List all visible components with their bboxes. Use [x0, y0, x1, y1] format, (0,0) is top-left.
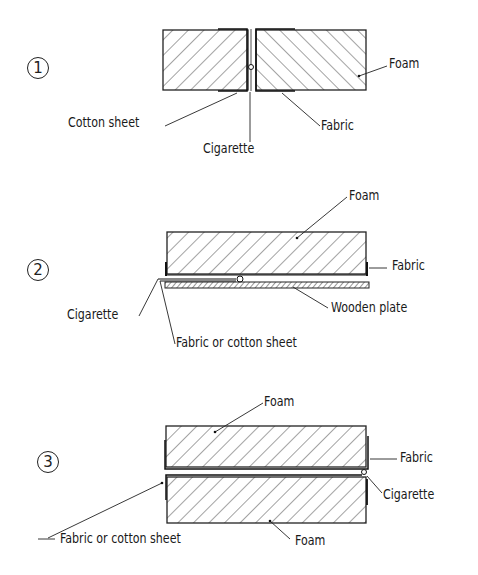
cigarette — [249, 65, 254, 70]
panel-number-1: 1 — [27, 57, 49, 79]
foam-block-right — [256, 30, 366, 90]
label-foam: Foam — [389, 55, 419, 71]
label-cotton-sheet: Cotton sheet — [68, 114, 139, 130]
panel-2 — [139, 197, 387, 344]
label-wooden-plate: Wooden plate — [331, 299, 407, 315]
foam-block-left — [163, 30, 248, 90]
label-fabric: Fabric — [321, 117, 354, 133]
label-foam-top: Foam — [264, 393, 294, 409]
panel-3 — [38, 403, 397, 539]
panel-number-3: 3 — [37, 451, 59, 473]
label-cigarette: Cigarette — [67, 306, 118, 322]
panel-number-2: 2 — [27, 259, 49, 281]
cigarette — [237, 276, 243, 282]
cigarette — [362, 470, 367, 475]
foam-block-top — [166, 426, 366, 467]
label-fabric-or-cotton-sheet: Fabric or cotton sheet — [60, 530, 181, 546]
label-foam: Foam — [349, 187, 379, 203]
foam-block-bottom — [167, 477, 366, 523]
label-fabric-or-cotton-sheet: Fabric or cotton sheet — [176, 334, 297, 350]
label-fabric: Fabric — [392, 257, 425, 273]
wooden-plate — [165, 282, 369, 288]
label-fabric: Fabric — [400, 449, 433, 465]
label-foam-bottom: Foam — [295, 532, 325, 548]
label-cigarette: Cigarette — [203, 140, 254, 156]
label-cigarette: Cigarette — [383, 486, 434, 502]
foam-block — [167, 232, 366, 274]
